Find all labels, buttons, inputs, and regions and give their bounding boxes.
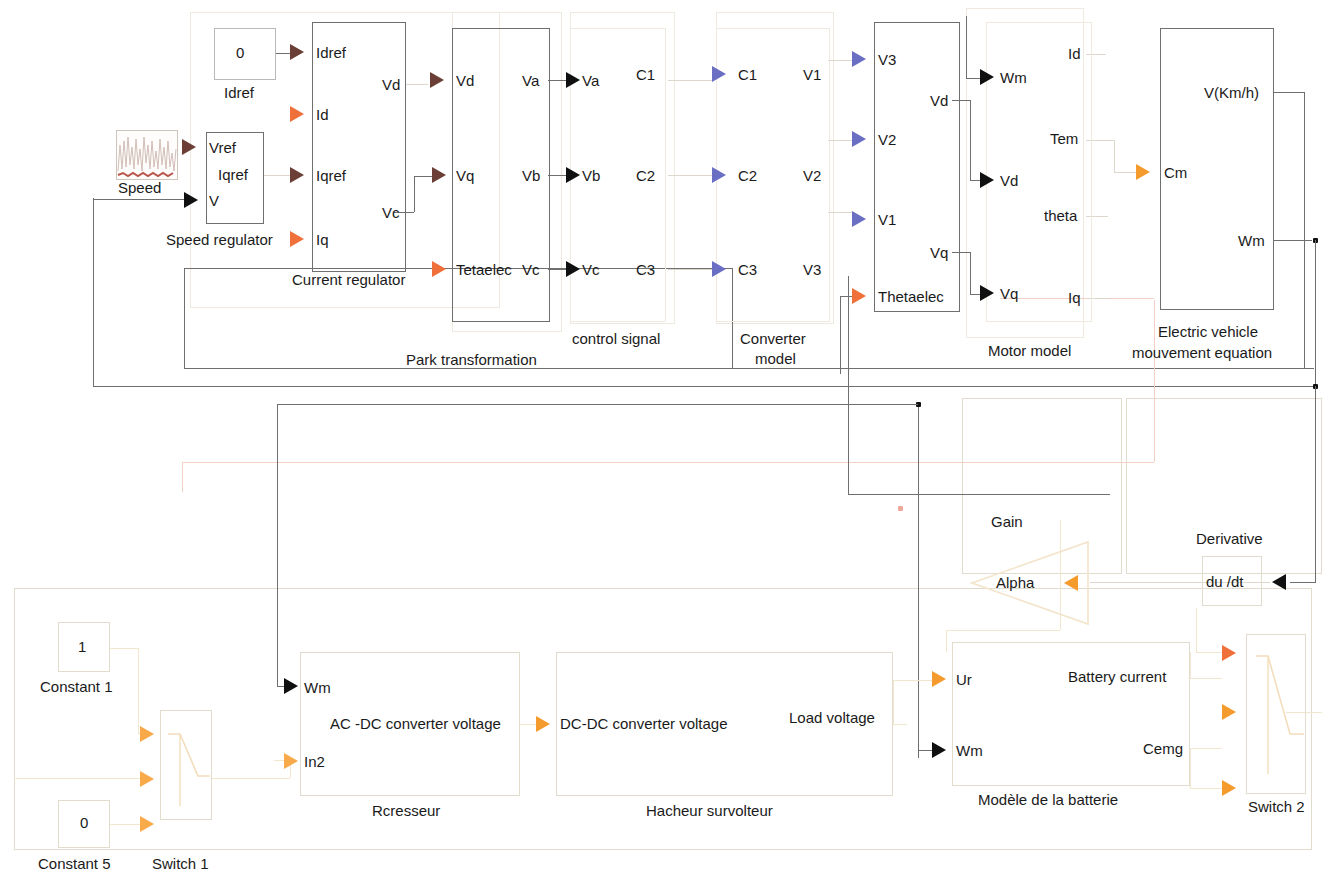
speed-regulator-name: Speed regulator [166,231,273,248]
park-port-vq: Vq [456,167,474,184]
port-arrow-redresseur-in2[interactable] [284,753,298,769]
wire-to-redresseur-wm [277,404,278,686]
port-arrow-conv-c3[interactable] [712,261,726,277]
control-signal-port-vc: Vc [582,261,600,278]
park-port-vd: Vd [456,72,474,89]
wire-v2 [828,140,852,141]
port-arrow-ctrl-va[interactable] [566,72,580,88]
constant5-name: Constant 5 [38,855,111,872]
wire-batt-current-out [1190,678,1222,679]
wire-vd-to-park [406,84,428,85]
control-signal-port-c3: C3 [636,261,655,278]
wire-hacheur-out [893,680,933,681]
wire-tem-h2 [1114,172,1136,173]
wire-batt-current-v [1190,652,1191,678]
wire-alpha-up [946,630,947,652]
port-arrow-park-vq[interactable] [432,167,446,183]
port-arrow-ctrl-vc[interactable] [566,261,580,277]
motor-port-iq: Iq [1068,289,1081,306]
port-arrow-iqref[interactable] [290,167,304,183]
switch1-lever-icon[interactable] [160,710,212,820]
port-arrow-hacheur-in[interactable] [536,716,550,732]
port-arrow-inv-v3[interactable] [852,51,866,67]
gain-name: Gain [991,513,1023,530]
inverter-port-vq-out: Vq [930,244,948,261]
wire-motor-vd-v [970,100,971,180]
wire-tem-v [1114,140,1115,172]
current-regulator-port-iqref: Iqref [316,167,346,184]
port-arrow-inv-v1[interactable] [852,211,866,227]
wire-ev-wm-out [1274,240,1312,241]
port-arrow-sw1-in3[interactable] [140,816,154,832]
constant5-value: 0 [80,814,88,831]
motor-port-theta: theta [1044,207,1077,224]
port-arrow-iq[interactable] [290,231,304,247]
port-arrow-sw2-in1[interactable] [1222,645,1236,661]
wire-pink-col-right [1154,300,1155,462]
wire-redresseur-out [520,724,536,725]
port-arrow-motor-wm[interactable] [980,69,994,85]
port-arrow-motor-vd[interactable] [980,172,994,188]
simulink-diagram-canvas: 0 Idref Speed Vref V Iqref Speed regulat… [0,0,1322,872]
wire-park-vb [548,175,566,176]
port-arrow-park-tetaelec[interactable] [432,261,446,277]
control-signal-port-va: Va [582,72,599,89]
group-outline-derivative-area [1126,398,1322,574]
wire-deriv-to-sw2 [1196,652,1222,653]
port-arrow-sw2-in3[interactable] [1222,780,1236,796]
port-arrow-redresseur-wm[interactable] [284,678,298,694]
port-arrow-inv-thetaelec[interactable] [852,288,866,304]
port-arrow-sw1-in1[interactable] [140,726,154,742]
port-arrow-derivative-in[interactable] [1272,574,1286,590]
wire-iqref-out [264,175,290,176]
park-port-vb: Vb [522,167,540,184]
port-arrow-vref[interactable] [182,139,196,155]
wire-feedback-left-outer [93,198,94,386]
port-arrow-sw2-in2[interactable] [1222,704,1236,720]
wire-park-va [548,80,566,81]
ev-port-cm: Cm [1164,164,1187,181]
wire-hacheur-out-v [893,680,894,724]
port-arrow-conv-c1[interactable] [712,66,726,82]
wire-derivative-input-v [1315,386,1316,582]
wire-derivative-input [1290,582,1316,583]
wire-pink-h [182,462,1154,463]
park-port-tetaelec: Tetaelec [456,261,512,278]
junction-dot-pink-lower [898,506,903,511]
wire-batt-cemg-out [1190,748,1222,749]
port-arrow-v[interactable] [184,192,198,208]
block-speed-source[interactable] [116,130,178,180]
switch2-name: Switch 2 [1248,798,1305,815]
port-arrow-motor-vq[interactable] [980,285,994,301]
port-arrow-battery-ur[interactable] [932,671,946,687]
switch2-lever-icon[interactable] [1246,634,1306,794]
battery-port-ur: Ur [956,671,972,688]
motor-model-name: Motor model [988,342,1071,359]
current-regulator-port-id: Id [316,106,329,123]
derivative-label: du /dt [1206,573,1244,590]
port-arrow-park-vd[interactable] [430,72,444,88]
wire-center-junction-left [277,404,918,405]
block-idref-constant[interactable] [214,28,276,80]
wire-v1 [828,60,852,61]
port-arrow-idref[interactable] [290,44,304,60]
converter-port-v2: V2 [803,167,821,184]
wire-sw1-ctrl [14,778,146,779]
port-arrow-id[interactable] [290,106,304,122]
port-arrow-ctrl-vb[interactable] [566,167,580,183]
port-arrow-inv-v2[interactable] [852,131,866,147]
converter-model-name-line2: model [755,350,796,367]
wire-vc-v [414,176,415,212]
block-battery-model[interactable] [952,642,1190,786]
port-arrow-battery-wm[interactable] [932,742,946,758]
port-arrow-ev-cm[interactable] [1136,164,1150,180]
battery-port-cemg: Cemg [1143,740,1183,757]
converter-port-c3: C3 [738,261,757,278]
port-arrow-gain-in[interactable] [1064,575,1078,591]
inverter-port-v2: V2 [878,131,896,148]
speed-regulator-port-iqref: Iqref [218,166,248,183]
port-arrow-conv-c2[interactable] [712,167,726,183]
motor-port-tem: Tem [1050,130,1078,147]
port-arrow-sw1-in2[interactable] [140,771,154,787]
motor-port-wm: Wm [1000,69,1027,86]
